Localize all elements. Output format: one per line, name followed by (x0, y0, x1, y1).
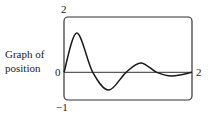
position-curve (64, 33, 192, 90)
plot-frame (64, 17, 192, 100)
chart-plot (0, 0, 208, 113)
